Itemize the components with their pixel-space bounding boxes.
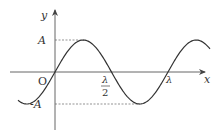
wavelength-label: λ [165, 74, 172, 85]
x-axis-label: x [204, 73, 211, 86]
negative-amplitude-label: -A [30, 98, 42, 111]
origin-label: O [38, 75, 47, 88]
wave-diagram: y x O A -A λ 2 λ [0, 0, 217, 135]
amplitude-label: A [37, 34, 46, 47]
half-wavelength-numerator: λ [101, 74, 108, 85]
y-axis-label: y [40, 9, 48, 22]
half-wavelength-denominator: 2 [102, 87, 108, 98]
